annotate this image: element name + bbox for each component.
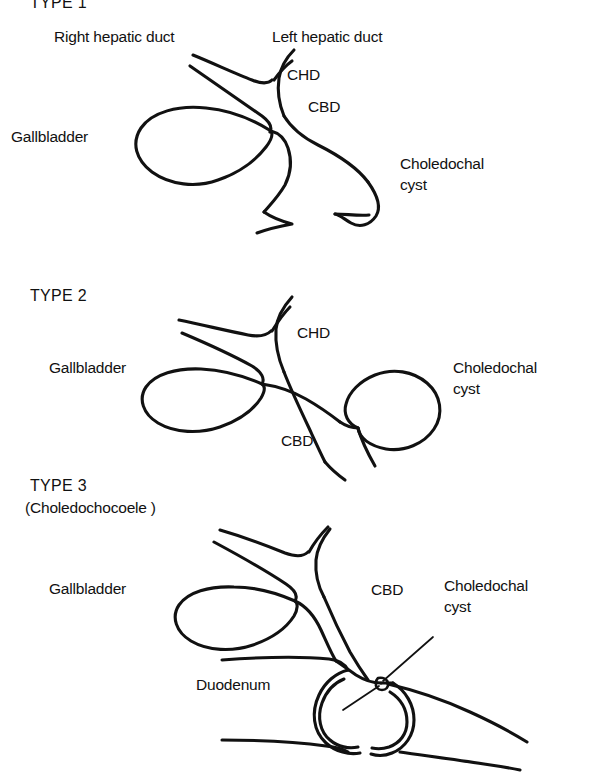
cbd-label-type3: CBD — [371, 581, 403, 599]
duodenum-lower-wall-left — [222, 740, 348, 752]
choledochal-cyst-label-type1-line2: cyst — [400, 176, 427, 194]
figure-page: TYPE 1 Right hepatic duct Left hepatic d… — [0, 0, 594, 774]
cyst-lumen-leader-line — [343, 686, 379, 710]
distal-duct-tail-left — [257, 212, 292, 233]
rhd-lower-type2 — [182, 333, 263, 384]
gallbladder-label-type1: Gallbladder — [11, 128, 88, 146]
distal-duct-tail-right — [335, 214, 369, 215]
type-2-heading: TYPE 2 — [30, 287, 87, 306]
chd-label-type2: CHD — [297, 324, 330, 342]
type-3-drawing — [175, 527, 527, 770]
chd-label-type1: CHD — [287, 66, 320, 84]
right-hepatic-duct-label: Right hepatic duct — [54, 28, 174, 46]
choledochal-cyst-label-type2-line2: cyst — [453, 380, 480, 398]
type-1-heading: TYPE 1 — [30, 0, 87, 13]
cbd-label-type1: CBD — [308, 98, 340, 116]
left-hepatic-duct-label: Left hepatic duct — [272, 28, 382, 46]
type-3-subheading: (Choledochocoele ) — [25, 499, 156, 517]
distal-cbd-right-type2 — [358, 428, 375, 466]
cyst-leader-line — [383, 637, 433, 681]
duodenum-inner-right — [372, 692, 407, 749]
anatomy-line-art — [0, 0, 594, 774]
type-1-drawing — [136, 50, 379, 233]
type-2-drawing — [142, 297, 440, 480]
cbd-upper-wall — [284, 116, 368, 182]
duodenum-inner-left — [320, 679, 358, 748]
gallbladder-label-type3: Gallbladder — [49, 580, 126, 598]
gallbladder-type2 — [142, 369, 264, 432]
choledochal-cyst-type2 — [345, 371, 440, 449]
duodenum-wall-right-lower — [400, 752, 520, 770]
type-3-heading: TYPE 3 — [30, 477, 87, 496]
distal-cbd-left-type2 — [325, 462, 345, 480]
gallbladder-type1 — [136, 107, 272, 184]
choledochal-cyst-label-type2-line1: Choledochal — [453, 359, 537, 377]
gallbladder-label-type2: Gallbladder — [49, 359, 126, 377]
cbd-label-type2: CBD — [281, 432, 313, 450]
right-hepatic-duct-lower — [190, 66, 271, 132]
duodenum-upper-wall-left — [222, 657, 348, 670]
choledochal-cyst-label-type3-line1: Choledochal — [444, 577, 528, 595]
gallbladder-type3 — [175, 587, 297, 650]
choledochal-cyst-right — [335, 182, 378, 225]
cystic-duct-type2 — [262, 384, 340, 422]
rhd-upper-type2 — [179, 320, 271, 336]
choledochal-cyst-label-type3-line2: cyst — [444, 598, 471, 616]
choledochal-cyst-label-type1-line1: Choledochal — [400, 155, 484, 173]
duodenum-label-type3: Duodenum — [196, 676, 270, 694]
right-hepatic-duct-upper — [193, 55, 272, 83]
duodenum-wall-right-upper — [388, 684, 527, 742]
